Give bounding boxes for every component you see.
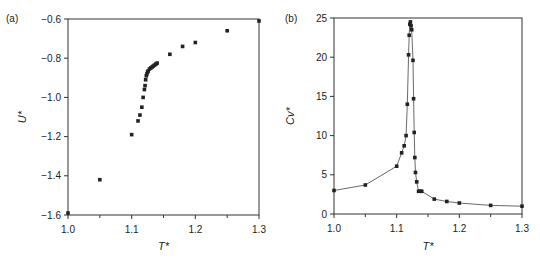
data-point-square xyxy=(140,105,144,109)
panel-a: 1.01.11.21.3−0.6−0.8−1.0−1.2−1.4−1.6(a)T… xyxy=(6,13,266,252)
y-tick-label: 5 xyxy=(321,169,327,180)
data-point-square xyxy=(194,41,198,45)
data-point-square xyxy=(395,164,399,168)
y-tick-label: 25 xyxy=(316,13,328,24)
x-tick-label: 1.2 xyxy=(452,223,466,234)
x-axis-title: T* xyxy=(423,240,435,252)
data-point-square xyxy=(332,189,336,193)
y-tick-label: −1.2 xyxy=(41,131,61,142)
x-tick-label: 1.3 xyxy=(515,223,529,234)
data-point-square xyxy=(143,84,147,88)
data-point-square xyxy=(415,180,419,184)
panel-b: 1.01.11.21.30510152025(b)T*Cv* xyxy=(284,13,529,253)
data-point-square xyxy=(155,61,159,65)
data-point-square xyxy=(257,19,261,23)
data-point-square xyxy=(489,204,493,208)
y-tick-label: −1.0 xyxy=(41,92,61,103)
data-point-square xyxy=(406,102,410,106)
data-point-square xyxy=(404,134,408,138)
plot-frame xyxy=(334,18,522,214)
data-point-square xyxy=(412,97,416,101)
y-axis-title: U* xyxy=(16,110,28,123)
data-point-square xyxy=(520,204,524,208)
data-point-square xyxy=(144,78,148,82)
panel-label: (a) xyxy=(6,13,18,24)
figure: 1.01.11.21.3−0.6−0.8−1.0−1.2−1.4−1.6(a)T… xyxy=(0,0,540,262)
data-point-square xyxy=(364,183,368,187)
data-point-square xyxy=(445,200,449,204)
y-tick-label: 0 xyxy=(321,209,327,220)
data-point-square xyxy=(413,156,417,160)
plot-frame xyxy=(68,19,259,215)
data-point-square xyxy=(141,96,145,100)
series-line xyxy=(334,22,522,206)
y-tick-label: −0.6 xyxy=(41,14,61,25)
data-point-square xyxy=(409,24,413,28)
figure-canvas: 1.01.11.21.3−0.6−0.8−1.0−1.2−1.4−1.6(a)T… xyxy=(0,0,540,262)
data-point-square xyxy=(407,53,411,57)
data-point-square xyxy=(400,151,404,155)
x-tick-label: 1.2 xyxy=(188,224,202,235)
data-point-square xyxy=(414,171,418,175)
data-point-square xyxy=(407,33,411,37)
data-point-square xyxy=(402,144,406,148)
x-tick-label: 1.0 xyxy=(61,224,75,235)
x-tick-label: 1.1 xyxy=(390,223,404,234)
data-point-square xyxy=(181,45,185,49)
y-axis-title: Cv* xyxy=(284,106,296,124)
y-tick-label: −1.4 xyxy=(41,170,61,181)
x-axis-title: T* xyxy=(158,240,170,252)
data-point-square xyxy=(225,29,229,33)
data-point-square xyxy=(130,133,134,137)
data-point-square xyxy=(458,201,462,205)
data-point-square xyxy=(411,59,415,63)
y-tick-label: 20 xyxy=(316,52,328,63)
data-point-square xyxy=(98,178,102,182)
y-tick-label: −0.8 xyxy=(41,53,61,64)
data-point-square xyxy=(66,211,70,215)
y-tick-label: 10 xyxy=(316,130,328,141)
data-point-square xyxy=(138,113,142,117)
data-point-square xyxy=(168,52,172,56)
data-point-square xyxy=(412,131,416,135)
data-point-square xyxy=(410,28,414,32)
data-point-square xyxy=(143,88,147,92)
x-tick-label: 1.1 xyxy=(125,224,139,235)
data-point-square xyxy=(409,20,413,24)
x-tick-label: 1.3 xyxy=(252,224,266,235)
data-point-square xyxy=(136,119,140,123)
y-tick-label: 15 xyxy=(316,91,328,102)
data-point-square xyxy=(432,197,436,201)
x-tick-label: 1.0 xyxy=(327,223,341,234)
panel-label: (b) xyxy=(285,13,297,24)
y-tick-label: −1.6 xyxy=(41,210,61,221)
data-point-square xyxy=(420,189,424,193)
